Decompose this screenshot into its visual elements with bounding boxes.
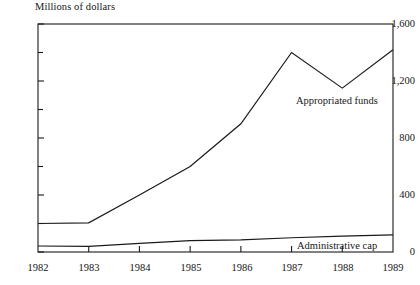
series-label-appropriated-funds: Appropriated funds: [296, 95, 378, 106]
x-tick-label-1989: 1989: [363, 262, 420, 273]
y-tick-label-400: 400: [381, 190, 415, 200]
y-tick-label-800: 800: [381, 133, 415, 143]
series-line-appropriated-funds: [38, 50, 393, 224]
y-axis-ticks: [38, 24, 44, 252]
y-tick-label-1600: 1,600: [381, 19, 415, 29]
y-axis-title: Millions of dollars: [35, 1, 115, 12]
series-label-administrative-cap: Administrative cap: [297, 240, 377, 251]
y-tick-label-0: 0: [381, 247, 415, 257]
y-tick-label-1200: 1,200: [381, 76, 415, 86]
plot-frame: [38, 24, 393, 252]
